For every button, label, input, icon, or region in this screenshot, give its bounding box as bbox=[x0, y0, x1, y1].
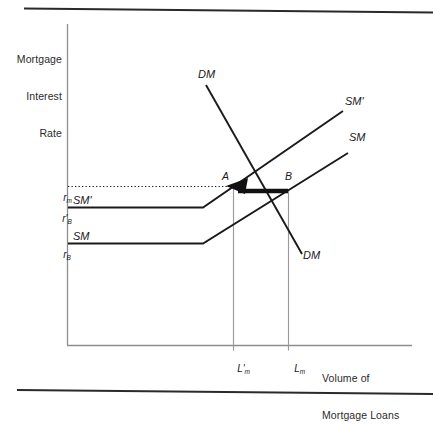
y-tick-rB-sub: B bbox=[66, 254, 70, 261]
top-rule bbox=[24, 9, 433, 13]
x-tick-label-Lm-prime: L'm bbox=[226, 351, 250, 386]
leftward-shift-arrow bbox=[226, 178, 288, 194]
y-tick-rB-prime-sub: B bbox=[67, 218, 71, 225]
x-tick-Lm-base: L bbox=[294, 363, 300, 374]
x-tick-Lm-prime-sub: m bbox=[245, 368, 250, 375]
y-axis-title-line-1: Mortgage bbox=[12, 53, 62, 65]
curve-label-dm-top: DM bbox=[198, 68, 215, 81]
curve-label-dm-bottom: DM bbox=[303, 249, 320, 262]
point-label-a: A bbox=[222, 170, 229, 182]
x-axis-title-line-1: Volume of bbox=[322, 372, 430, 384]
y-axis-title-line-2: Interest bbox=[12, 90, 62, 102]
curve-label-sm-prime-left: SM' bbox=[73, 194, 92, 207]
y-axis-title: Mortgage Interest Rate bbox=[12, 28, 62, 164]
x-axis-title-line-2: Mortgage Loans bbox=[322, 409, 430, 421]
x-tick-label-Lm: Lm bbox=[283, 351, 305, 386]
point-label-b: B bbox=[285, 170, 292, 182]
supply-curve-sm bbox=[68, 153, 348, 244]
x-tick-Lm-sub: m bbox=[300, 368, 305, 375]
curve-label-sm-left: SM bbox=[73, 230, 90, 243]
curve-label-sm-prime-right: SM' bbox=[345, 95, 364, 108]
supply-curve-sm-prime bbox=[68, 111, 343, 208]
x-axis-title: Volume of Mortgage Loans bbox=[322, 347, 430, 425]
curve-label-sm-right: SM bbox=[349, 131, 366, 144]
y-tick-label-rB: rB bbox=[52, 237, 71, 272]
y-tick-label-rB-prime: r'B bbox=[51, 201, 72, 236]
y-axis-title-line-3: Rate bbox=[12, 127, 62, 139]
